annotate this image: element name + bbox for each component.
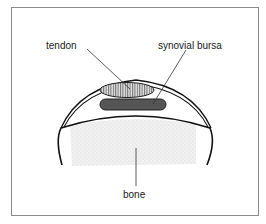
tendon-shape bbox=[100, 83, 154, 98]
bursa-shape bbox=[100, 99, 166, 110]
figure-frame bbox=[12, 8, 259, 216]
tendon-label: tendon bbox=[46, 40, 77, 52]
diagram-figure: tendon synovial bursa bone bbox=[0, 0, 266, 224]
bursa-leader-line bbox=[153, 50, 186, 104]
bone-shape bbox=[58, 116, 212, 166]
bone-label: bone bbox=[123, 189, 145, 201]
tendon-leader-line bbox=[87, 49, 130, 89]
bone-stipple bbox=[70, 119, 196, 166]
synovial-bursa-label: synovial bursa bbox=[158, 40, 222, 52]
